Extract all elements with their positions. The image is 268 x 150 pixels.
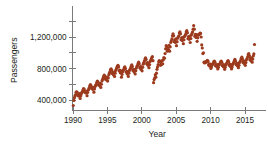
data-point [117,65,120,68]
data-point [148,63,151,66]
data-point [107,76,110,79]
data-point [92,91,95,94]
x-axis-tick-label: 2000 [133,116,152,125]
data-point [175,40,178,43]
data-point [79,97,82,100]
data-point [175,44,178,47]
data-point [179,32,182,35]
y-axis-title: Passengers [9,38,19,83]
data-point [172,34,175,37]
x-axis-title: Year [149,129,167,139]
data-point [147,66,150,69]
data-point [244,61,247,64]
data-point [154,76,157,79]
data-point [120,76,123,79]
data-point [131,65,134,68]
data-point [251,57,254,60]
data-point [196,36,199,39]
y-axis-tick-label: 800,000 [37,65,67,74]
data-point [253,43,256,46]
y-axis-tick-label: 400,000 [37,96,67,105]
data-point [168,50,171,53]
data-points-group [72,24,256,107]
data-point [252,52,255,55]
data-point [161,62,164,65]
data-point [189,41,192,44]
data-point [151,59,154,62]
x-axis-tick-label: 1995 [98,116,117,125]
data-point [163,52,166,55]
data-point [72,99,75,102]
data-point [182,42,185,45]
data-point [134,72,137,75]
y-axis-tick-label: 1,200,000 [30,33,67,42]
x-axis-tick-label: 1990 [64,116,83,125]
data-point [170,37,173,40]
data-point [85,94,88,97]
data-point [192,24,195,27]
data-point [106,80,109,83]
data-point [138,62,141,65]
data-point [163,57,166,60]
data-point [145,58,148,61]
data-point [141,66,144,69]
data-point [140,69,143,72]
data-point [202,51,205,54]
data-point [237,64,240,67]
data-point [244,64,247,67]
data-point [120,73,123,76]
data-point [200,43,203,46]
data-point [127,72,130,75]
x-axis-tick-label: 2005 [167,116,186,125]
data-point [100,83,103,86]
data-point [199,32,202,35]
data-point [251,61,254,64]
data-point [127,75,130,78]
data-point [186,31,189,34]
data-point [113,75,116,78]
data-point [152,81,155,84]
data-point [201,46,204,49]
data-point [124,67,127,70]
data-point [200,35,203,38]
chart-svg: 400,000800,0001,200,00019901995200020052… [0,0,268,150]
data-point [206,60,209,63]
data-point [151,55,154,58]
data-point [72,104,75,107]
data-point [196,40,199,43]
axis-labels-group: 400,000800,0001,200,00019901995200020052… [9,33,255,139]
data-point [182,38,185,41]
data-point [189,37,192,40]
data-point [193,28,196,31]
data-point [99,86,102,89]
passengers-scatter-chart: 400,000800,0001,200,00019901995200020052… [0,0,268,150]
data-point [114,72,117,75]
data-point [155,72,158,75]
x-axis-tick-label: 2015 [236,116,255,125]
data-point [191,30,194,33]
data-point [134,69,137,72]
data-point [169,45,172,48]
x-axis-tick-label: 2010 [201,116,220,125]
